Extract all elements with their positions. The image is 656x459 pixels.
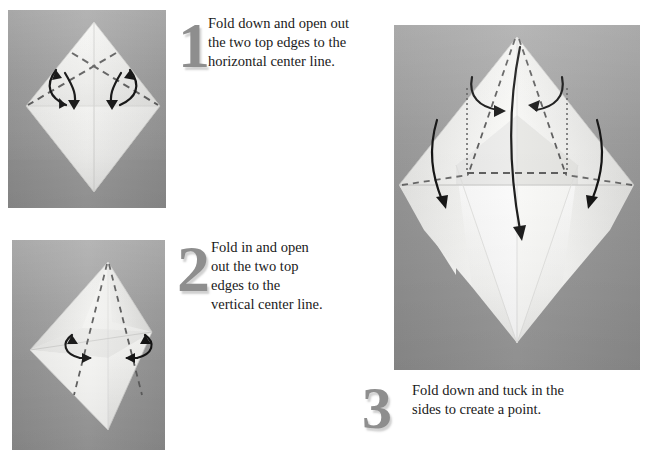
- step-caption-2: Fold in and open out the two top edges t…: [211, 238, 361, 315]
- caption-line: vertical center line.: [211, 295, 361, 314]
- caption-line: edges to the: [211, 276, 361, 295]
- photo-1-artwork: [8, 10, 166, 208]
- caption-line: the two top edges to the: [208, 33, 380, 52]
- caption-line: horizontal center line.: [208, 52, 380, 71]
- step-caption-1: Fold down and open out the two top edges…: [208, 14, 380, 71]
- origami-photo-step-2: [12, 240, 165, 450]
- origami-instruction-page: 1 Fold down and open out the two top edg…: [0, 0, 656, 459]
- caption-line: Fold down and open out: [208, 14, 380, 33]
- caption-line: sides to create a point.: [412, 400, 627, 419]
- caption-line: Fold in and open: [211, 238, 361, 257]
- origami-photo-step-3: [394, 25, 640, 370]
- step-number-2: 2: [177, 236, 210, 302]
- step-caption-3: Fold down and tuck in the sides to creat…: [412, 381, 627, 419]
- caption-line: Fold down and tuck in the: [412, 381, 627, 400]
- step-number-1: 1: [178, 14, 210, 78]
- photo-3-artwork: [394, 25, 640, 370]
- origami-photo-step-1: [8, 10, 166, 208]
- photo-2-artwork: [12, 240, 165, 450]
- caption-line: out the two top: [211, 257, 361, 276]
- step-number-3: 3: [362, 378, 392, 438]
